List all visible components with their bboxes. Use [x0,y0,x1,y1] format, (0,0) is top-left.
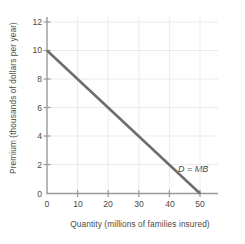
vertical-gridlines [78,17,200,193]
horizontal-gridlines [47,22,218,165]
chart-figure: Premium (thousands of dollars per year) … [0,0,245,244]
chart-plot-area [0,0,245,244]
demand-curve-line [47,51,200,194]
